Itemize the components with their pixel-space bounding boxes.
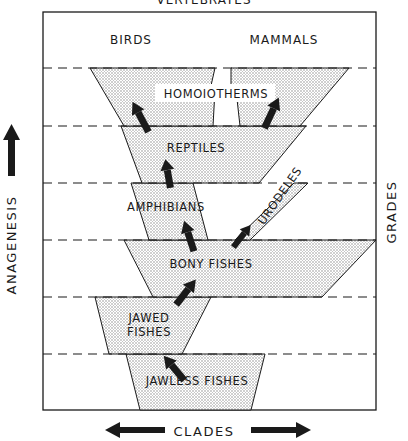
label-anagenesis: ANAGENESIS — [4, 196, 19, 295]
label-reptiles: REPTILES — [167, 141, 225, 155]
anagenesis-axis: ANAGENESIS — [3, 124, 20, 294]
grade-shapes — [90, 68, 376, 410]
arrow-right-icon — [251, 422, 311, 438]
label-birds: BIRDS — [110, 33, 152, 47]
label-fishes: FISHES — [127, 325, 171, 339]
label-bony-fishes: BONY FISHES — [169, 257, 252, 271]
arrow-left-icon — [105, 422, 165, 438]
vertebrate-grades-clades-diagram: VERTEBRATES BIRDS MAMMALS HOMOIOTHERMS R — [0, 0, 408, 441]
label-amphibians: AMPHIBIANS — [127, 200, 205, 214]
label-clades: CLADES — [174, 424, 235, 439]
arrow-up-icon — [3, 124, 20, 176]
label-mammals: MAMMALS — [250, 33, 319, 47]
label-grades: GRADES — [384, 181, 399, 244]
clades-axis: CLADES — [105, 422, 311, 439]
label-homoiotherms: HOMOIOTHERMS — [164, 87, 268, 101]
label-jawless-fishes: JAWLESS FISHES — [145, 374, 249, 388]
label-jawed: JAWED — [128, 311, 170, 325]
diagram-title: VERTEBRATES — [156, 0, 251, 7]
